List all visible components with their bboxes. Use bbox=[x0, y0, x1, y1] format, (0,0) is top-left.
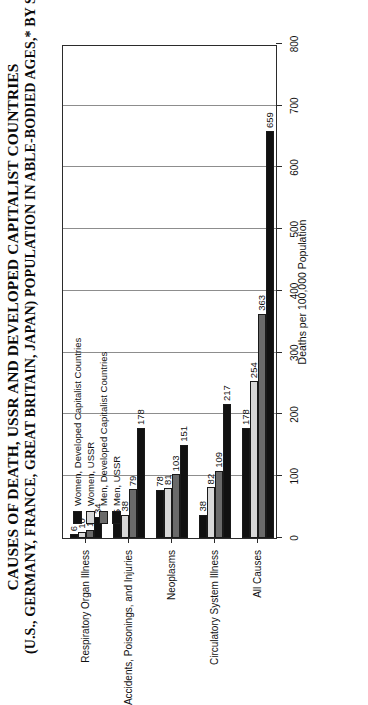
category-label: Circulatory System Illness bbox=[208, 550, 219, 665]
bar[interactable] bbox=[250, 381, 258, 538]
bar[interactable] bbox=[199, 515, 207, 538]
bar[interactable] bbox=[242, 428, 250, 538]
bar[interactable] bbox=[129, 489, 137, 538]
legend-item[interactable]: Women, Developed Capitalist Countries bbox=[71, 338, 84, 524]
bar[interactable] bbox=[137, 428, 145, 538]
bar[interactable] bbox=[180, 445, 188, 538]
legend-item-label: Men, Developed Capitalist Countries bbox=[98, 352, 109, 506]
legend-item-label: Women, USSR bbox=[85, 442, 96, 506]
bar[interactable] bbox=[70, 534, 78, 538]
chart-title-line-1: CAUSES OF DEATH, USSR AND DEVELOPED CAPI… bbox=[4, 0, 22, 654]
chart-legend: Women, Developed Capitalist CountriesWom… bbox=[70, 336, 124, 526]
bar-group: 7881103151 bbox=[149, 46, 192, 538]
bar[interactable] bbox=[215, 471, 223, 538]
category-tick bbox=[257, 538, 258, 543]
legend-item[interactable]: Men, USSR bbox=[110, 338, 123, 524]
bar-group: 178254363659 bbox=[235, 46, 278, 538]
bar-group: 3882109217 bbox=[192, 46, 235, 538]
category-tick bbox=[214, 538, 215, 543]
bar[interactable] bbox=[223, 404, 231, 538]
x-axis-title: Deaths per 100,000 Population bbox=[296, 45, 308, 539]
bar-value-label: 217 bbox=[222, 385, 232, 401]
chart-title: CAUSES OF DEATH, USSR AND DEVELOPED CAPI… bbox=[4, 0, 39, 654]
bar[interactable] bbox=[207, 487, 215, 538]
legend-item-label: Women, Developed Capitalist Countries bbox=[72, 338, 83, 506]
bar-value-label: 659 bbox=[265, 112, 275, 128]
bar[interactable] bbox=[86, 530, 94, 538]
category-label: All Causes bbox=[251, 550, 262, 598]
bar[interactable] bbox=[172, 474, 180, 538]
category-tick bbox=[171, 538, 172, 543]
bar[interactable] bbox=[156, 490, 164, 538]
bar[interactable] bbox=[258, 314, 266, 538]
chart-title-line-2: (U.S., GERMANY, FRANCE, GREAT BRITAIN, J… bbox=[22, 0, 39, 654]
category-label: Accidents, Poisonings, and Injuries bbox=[122, 550, 133, 705]
legend-item[interactable]: Men, Developed Capitalist Countries bbox=[97, 338, 110, 524]
legend-item-label: Men, USSR bbox=[111, 456, 122, 506]
legend-swatch-icon bbox=[73, 511, 82, 524]
bar-value-label: 151 bbox=[179, 426, 189, 442]
category-tick bbox=[85, 538, 86, 543]
category-label: Respiratory Organ Illness bbox=[79, 550, 90, 663]
category-tick bbox=[128, 538, 129, 543]
legend-swatch-icon bbox=[112, 511, 121, 524]
category-label: Neoplasms bbox=[165, 550, 176, 600]
legend-item[interactable]: Women, USSR bbox=[84, 338, 97, 524]
bar[interactable] bbox=[164, 488, 172, 538]
x-axis-tick bbox=[276, 43, 282, 44]
legend-swatch-icon bbox=[99, 511, 108, 524]
bar[interactable] bbox=[266, 131, 274, 538]
bar-value-label: 178 bbox=[136, 409, 146, 425]
legend-swatch-icon bbox=[86, 511, 95, 524]
